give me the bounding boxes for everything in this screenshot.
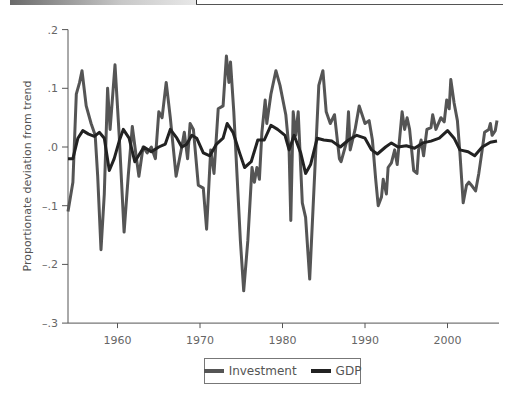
investment-line [68,56,497,291]
y-tick-label: .0 [48,141,59,154]
x-tick-label: 1970 [186,334,214,347]
legend: Investment GDP [204,358,361,384]
y-tick-label: .2 [48,24,59,37]
x-tick-label: 2000 [434,334,462,347]
gdp-swatch-icon [311,369,331,373]
y-tick-label: –.1 [42,200,58,213]
y-axis: .2.1.0–.1–.2–.3 [42,24,68,331]
investment-swatch-icon [204,369,224,373]
x-tick-label: 1990 [351,334,379,347]
legend-label-gdp: GDP [336,364,362,378]
y-tick-label: –.3 [42,317,58,330]
y-tick-label: .1 [48,82,59,95]
line-chart: .2.1.0–.1–.2–.3 19601970198019902000 Pro… [0,0,517,402]
x-tick-label: 1960 [104,334,132,347]
legend-item-investment: Investment [204,364,297,378]
legend-label-investment: Investment [229,364,297,378]
y-axis-title: Proportionate deviation from trend [21,80,34,271]
legend-item-gdp: GDP [311,364,362,378]
y-tick-label: –.2 [42,258,58,271]
x-tick-label: 1980 [269,334,297,347]
x-axis: 19601970198019902000 [68,323,499,347]
plot-series [68,56,497,291]
